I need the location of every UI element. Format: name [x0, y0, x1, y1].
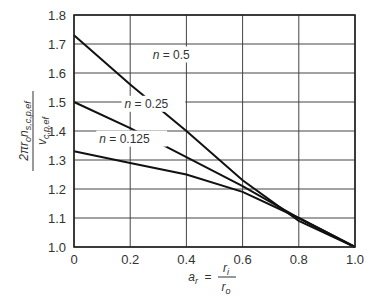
x-tick: 1.0	[346, 252, 364, 267]
curve-0.125	[74, 151, 355, 247]
y-tick: 1.0	[48, 240, 66, 255]
x-tick: 0.6	[234, 252, 252, 267]
x-tick: 0.4	[177, 252, 195, 267]
x-tick-labels: 00.20.40.60.81.0	[70, 252, 364, 267]
svg-text:=: =	[204, 270, 211, 284]
curve-label: n = 0.125	[99, 132, 150, 146]
svg-text:vc,p,ef: vc,p,ef	[35, 115, 51, 145]
x-tick: 0.2	[121, 252, 139, 267]
curve-label: n = 0.5	[153, 48, 190, 62]
y-tick: 1.1	[48, 211, 66, 226]
y-tick: 1.3	[48, 153, 66, 168]
svg-text:2πrons,c,p,ef: 2πrons,c,p,ef	[17, 100, 33, 162]
svg-text:ro: ro	[221, 280, 230, 296]
curve-annotations: n = 0.5n = 0.25n = 0.125	[96, 47, 206, 147]
svg-text:ar: ar	[188, 270, 199, 286]
y-tick: 1.6	[48, 66, 66, 81]
x-axis-label: ar = ri ro	[188, 261, 236, 296]
y-tick: 1.5	[48, 95, 66, 110]
x-tick: 0.8	[290, 252, 308, 267]
x-tick: 0	[70, 252, 77, 267]
y-tick: 1.2	[48, 182, 66, 197]
curve-label: n = 0.25	[125, 97, 169, 111]
y-tick: 1.8	[48, 8, 66, 23]
svg-text:ri: ri	[223, 261, 230, 277]
chart: 1.01.11.21.31.41.51.61.71.8 00.20.40.60.…	[0, 0, 373, 307]
y-tick: 1.7	[48, 37, 66, 52]
y-axis-label: 2πrons,c,p,ef vc,p,ef	[17, 91, 51, 171]
